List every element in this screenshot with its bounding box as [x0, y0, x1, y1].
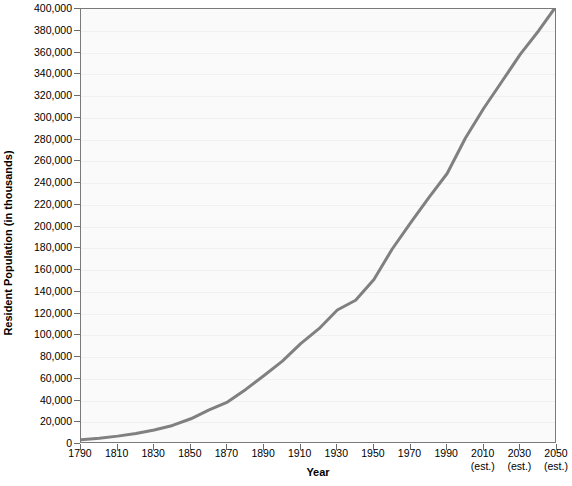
x-axis-tick-mark — [336, 444, 337, 450]
x-axis-tick-mark — [373, 444, 374, 450]
x-axis-tick-mark — [556, 444, 557, 450]
y-axis-tick-label: 140,000 — [4, 285, 72, 297]
y-axis-tick-mark — [74, 139, 80, 140]
y-axis-tick-mark — [74, 356, 80, 357]
y-axis-tick-mark — [74, 247, 80, 248]
x-axis-tick-mark — [80, 444, 81, 450]
y-axis-tick-label: 240,000 — [4, 176, 72, 188]
y-axis-tick-label: 280,000 — [4, 133, 72, 145]
y-axis-tick-label: 20,000 — [4, 415, 72, 427]
x-axis-tick-mark — [153, 444, 154, 450]
y-axis-tick-mark — [74, 334, 80, 335]
y-axis-tick-mark — [74, 52, 80, 53]
x-axis-tick-mark — [226, 444, 227, 450]
y-axis-tick-mark — [74, 226, 80, 227]
x-axis-tick-mark — [446, 444, 447, 450]
y-axis-tick-mark — [74, 421, 80, 422]
y-axis-tick-label: 400,000 — [4, 2, 72, 14]
x-axis-tick-mark — [190, 444, 191, 450]
y-axis-tick-label: 100,000 — [4, 328, 72, 340]
x-axis-tick-mark — [410, 444, 411, 450]
x-axis-tick-mark — [300, 444, 301, 450]
y-axis-tick-label: 120,000 — [4, 307, 72, 319]
y-axis-tick-mark — [74, 8, 80, 9]
y-axis-tick-label: 360,000 — [4, 46, 72, 58]
x-axis-tick-mark — [519, 444, 520, 450]
y-axis-tick-labels: 020,00040,00060,00080,000100,000120,0001… — [0, 0, 72, 486]
data-line-svg — [81, 9, 556, 443]
y-axis-tick-label: 220,000 — [4, 198, 72, 210]
y-axis-tick-mark — [74, 30, 80, 31]
y-axis-tick-mark — [74, 313, 80, 314]
x-axis-title: Year — [80, 466, 556, 478]
y-axis-tick-label: 40,000 — [4, 394, 72, 406]
y-axis-tick-mark — [74, 378, 80, 379]
y-axis-tick-mark — [74, 204, 80, 205]
plot-area — [80, 8, 556, 443]
y-axis-tick-label: 60,000 — [4, 372, 72, 384]
y-axis-tick-label: 180,000 — [4, 241, 72, 253]
y-axis-tick-mark — [74, 117, 80, 118]
y-axis-tick-mark — [74, 182, 80, 183]
y-axis-tick-mark — [74, 73, 80, 74]
population-line-path — [81, 9, 556, 440]
y-axis-tick-label: 200,000 — [4, 220, 72, 232]
x-axis-tick-mark — [483, 444, 484, 450]
y-axis-tick-label: 320,000 — [4, 89, 72, 101]
y-axis-tick-mark — [74, 400, 80, 401]
y-axis-tick-label: 340,000 — [4, 67, 72, 79]
y-axis-tick-mark — [74, 95, 80, 96]
y-axis-tick-label: 160,000 — [4, 263, 72, 275]
x-axis-tick-mark — [263, 444, 264, 450]
x-axis-tick-mark — [117, 444, 118, 450]
y-axis-tick-label: 300,000 — [4, 111, 72, 123]
y-axis-tick-mark — [74, 269, 80, 270]
y-axis-tick-mark — [74, 160, 80, 161]
y-axis-tick-label: 260,000 — [4, 154, 72, 166]
y-axis-tick-label: 380,000 — [4, 24, 72, 36]
y-axis-tick-mark — [74, 291, 80, 292]
y-axis-tick-label: 80,000 — [4, 350, 72, 362]
